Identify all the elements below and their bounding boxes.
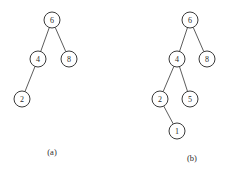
tree-node-b1: 1 bbox=[169, 123, 185, 139]
node-label-b8: 8 bbox=[205, 55, 209, 64]
tree-diagram-canvas: 6482648251 (a)(b) bbox=[0, 0, 235, 173]
tree-edge-b6-b8 bbox=[193, 27, 204, 51]
tree-edge-b4-b2 bbox=[163, 66, 174, 91]
node-label-b4: 4 bbox=[175, 55, 179, 64]
panel-caption-0: (a) bbox=[47, 147, 57, 157]
node-label-b5: 5 bbox=[188, 95, 192, 104]
captions-layer: (a)(b) bbox=[47, 147, 197, 163]
tree-edge-b6-b4 bbox=[180, 28, 188, 52]
tree-node-a6: 6 bbox=[44, 12, 60, 28]
tree-node-b4: 4 bbox=[169, 51, 185, 67]
tree-node-b2: 2 bbox=[152, 91, 168, 107]
node-label-a6: 6 bbox=[50, 16, 54, 25]
edges-layer bbox=[25, 27, 204, 124]
node-label-b1: 1 bbox=[175, 127, 179, 136]
node-label-b2: 2 bbox=[158, 95, 162, 104]
tree-node-b5: 5 bbox=[182, 91, 198, 107]
tree-node-a4: 4 bbox=[30, 51, 46, 67]
node-label-a8: 8 bbox=[67, 55, 71, 64]
node-label-a2: 2 bbox=[20, 95, 24, 104]
tree-node-b6: 6 bbox=[182, 12, 198, 28]
tree-edge-a6-a4 bbox=[41, 28, 50, 52]
tree-node-b8: 8 bbox=[199, 51, 215, 67]
tree-edge-b4-b5 bbox=[179, 67, 187, 92]
panel-caption-1: (b) bbox=[187, 153, 197, 163]
tree-edge-b2-b1 bbox=[164, 106, 174, 124]
node-label-a4: 4 bbox=[36, 55, 40, 64]
tree-node-a2: 2 bbox=[14, 91, 30, 107]
figure-container: 6482648251 (a)(b) bbox=[0, 0, 235, 173]
node-label-b6: 6 bbox=[188, 16, 192, 25]
tree-node-a8: 8 bbox=[61, 51, 77, 67]
tree-edge-a4-a2 bbox=[25, 66, 35, 91]
tree-edge-a6-a8 bbox=[55, 27, 66, 51]
nodes-layer: 6482648251 bbox=[14, 12, 215, 139]
